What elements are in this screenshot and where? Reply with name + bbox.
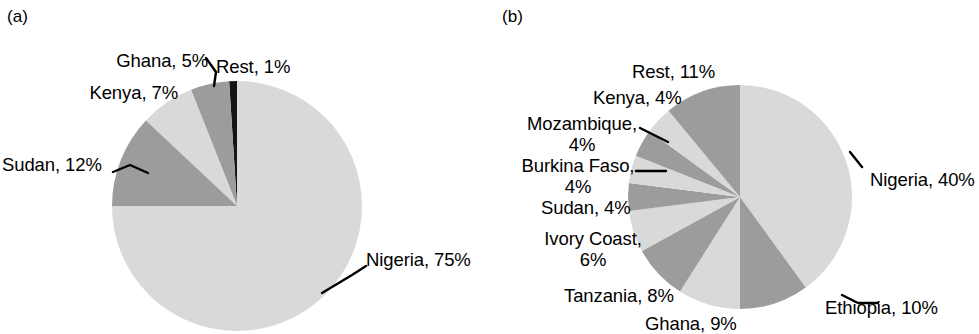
pie-slice-label: Nigeria, 75% [366,249,486,270]
leader-line [850,152,862,167]
panel-a: (a) Ghana, 5%Rest, 1%Kenya, 7%Sudan, 12%… [0,0,490,334]
pie-slice-label: Tanzania, 8% [564,285,689,306]
panel-b: (b) Rest, 11%Kenya, 4%Mozambique, 4%Burk… [490,0,979,334]
pie-slice-label: Rest, 11% [632,61,732,82]
pie-slice-label: Burkina Faso, 4% [503,155,653,197]
pie-slice-label: Sudan, 4% [541,197,641,218]
pie-slice-label: Kenya, 7% [60,82,178,103]
pie-slice-label: Ghana, 9% [645,313,755,334]
pie-slice-label: Rest, 1% [216,56,312,77]
pie-slice-label: Kenya, 4% [593,87,693,108]
pie-chart-figure: (a) Ghana, 5%Rest, 1%Kenya, 7%Sudan, 12%… [0,0,979,334]
pie-slice-label: Nigeria, 40% [870,169,979,190]
pie-slice-label: Ethiopia, 10% [825,297,950,318]
pie-slice-label: Ivory Coast, 6% [533,228,653,270]
pie-slice-label: Ghana, 5% [90,50,208,71]
pie-slice-label: Sudan, 12% [2,154,112,175]
pie-slice-label: Mozambique, 4% [507,113,657,155]
